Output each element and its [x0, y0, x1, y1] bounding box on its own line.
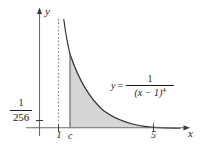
- fraction-numerator: 1: [6, 98, 36, 109]
- x-tick-label-c: c: [68, 131, 72, 141]
- equation-equals-sign: =: [117, 80, 126, 91]
- y-value-label-1-over-256: 1 256: [6, 98, 36, 123]
- x-axis-label: x: [188, 128, 193, 139]
- equation-denominator-exponent: 4: [162, 86, 166, 94]
- equation-denominator-base: (x − 1): [134, 87, 162, 98]
- equation-denominator: (x − 1)4: [126, 87, 174, 99]
- x-tick-label-1: 1: [57, 130, 62, 140]
- y-axis-label: y: [45, 6, 50, 17]
- function-equation-label: y = 1 (x − 1)4: [111, 73, 174, 99]
- x-tick-label-5: 5: [151, 130, 156, 140]
- fraction-denominator: 256: [6, 112, 36, 124]
- equation-fraction: 1 (x − 1)4: [126, 73, 174, 99]
- equation-numerator: 1: [126, 73, 174, 84]
- figure-container: y x 1 c 5 1 256 y = 1 (x − 1)4: [0, 0, 201, 156]
- y-axis-arrowhead: [37, 8, 42, 15]
- equation-fraction-bar: [126, 85, 174, 86]
